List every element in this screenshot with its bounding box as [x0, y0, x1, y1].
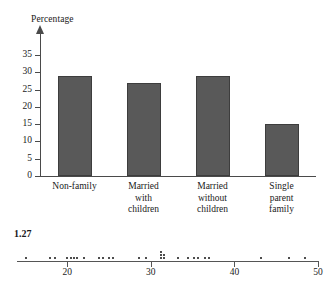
dot-plot-dot — [73, 257, 75, 259]
y-axis-tick-label: 0 — [27, 170, 32, 181]
y-axis-tick: 10 — [35, 141, 40, 142]
category-label-line: Married — [178, 181, 247, 193]
category-label-line: Non-family — [40, 181, 109, 193]
dot-plot-dot — [138, 257, 140, 259]
bar-chart-plot-area: 05101520253035 Non-familyMarriedwithchil… — [0, 0, 327, 218]
y-axis-tick-label: 25 — [23, 84, 33, 95]
y-axis-arrow-icon — [36, 25, 44, 34]
y-axis-tick-label: 15 — [23, 118, 33, 129]
dot-plot-dot — [304, 257, 306, 259]
x-axis-tick-label: 50 — [313, 267, 323, 278]
dot-plot-dot — [160, 254, 162, 256]
y-axis-tick: 15 — [35, 124, 40, 125]
y-axis-tick: 0 — [35, 176, 40, 177]
dot-plot-dot — [66, 257, 68, 259]
dot-plot-dot — [288, 257, 290, 259]
category-label-line: children — [109, 204, 178, 216]
y-axis-tick-mark — [35, 107, 40, 108]
y-axis-tick-mark — [35, 55, 40, 56]
dot-plot-dot — [204, 257, 206, 259]
category-label-line: with — [109, 193, 178, 205]
x-axis-tick-label: 40 — [230, 267, 240, 278]
y-axis-line — [40, 33, 41, 176]
dot-plot-dot — [112, 257, 114, 259]
dot-plot-dot — [160, 251, 162, 253]
y-axis-tick-mark — [35, 90, 40, 91]
y-axis-tick-mark — [35, 159, 40, 160]
y-axis-tick: 30 — [35, 72, 40, 73]
dot-plot-dot — [102, 257, 104, 259]
y-axis-tick-mark — [35, 72, 40, 73]
y-axis-tick: 20 — [35, 107, 40, 108]
dot-plot-dot — [197, 257, 199, 259]
y-axis-tick-mark — [35, 141, 40, 142]
dot-plot-axis-line — [17, 261, 318, 262]
dot-plot-dot — [76, 257, 78, 259]
exercise-number-label: 1.27 — [14, 228, 32, 239]
y-axis-tick-label: 35 — [23, 49, 33, 60]
x-axis-category-label: Singleparentfamily — [247, 181, 316, 216]
category-label-line: without — [178, 193, 247, 205]
category-label-line: Married — [109, 181, 178, 193]
dot-plot-dot — [177, 257, 179, 259]
category-label-line: Single — [247, 181, 316, 193]
dot-plot-dot — [160, 257, 162, 259]
y-axis-tick-mark — [35, 176, 40, 177]
dot-plot-dot — [145, 257, 147, 259]
dot-plot-dot — [193, 257, 195, 259]
y-axis-tick-mark — [35, 124, 40, 125]
x-axis-category-label: Marriedwithchildren — [109, 181, 178, 216]
category-label-line: family — [247, 204, 316, 216]
y-axis-tick-label: 5 — [27, 153, 32, 164]
dot-plot-dot — [163, 257, 165, 259]
dot-plot-dot — [83, 257, 85, 259]
x-axis-category-label: Non-family — [40, 181, 109, 193]
dot-plot-dot — [49, 257, 51, 259]
y-axis-tick: 5 — [35, 159, 40, 160]
dot-plot-dot — [54, 257, 56, 259]
bar — [196, 76, 230, 176]
bar-chart-figure: Percentage 05101520253035 Non-familyMarr… — [0, 0, 327, 218]
dot-plot-dot — [70, 257, 72, 259]
dot-plot-dot — [163, 254, 165, 256]
dot-plot-dot — [98, 257, 100, 259]
y-axis-tick-label: 20 — [23, 101, 33, 112]
x-axis-tick-label: 20 — [62, 267, 72, 278]
dot-plot-figure: 1.27 20304050 — [0, 218, 327, 282]
bar — [265, 124, 299, 176]
y-axis-tick: 25 — [35, 90, 40, 91]
category-label-line: parent — [247, 193, 316, 205]
y-axis-tick-label: 10 — [23, 135, 33, 146]
dot-plot-dot — [208, 257, 210, 259]
bar — [127, 83, 161, 176]
x-axis-line — [40, 176, 316, 177]
y-axis-tick-label: 30 — [23, 66, 33, 77]
dot-plot-dot — [25, 257, 27, 259]
category-label-line: children — [178, 204, 247, 216]
dot-plot-dot — [260, 257, 262, 259]
x-axis-category-label: Marriedwithoutchildren — [178, 181, 247, 216]
dot-plot-dot — [187, 257, 189, 259]
bar — [58, 76, 92, 176]
dot-plot-dot — [108, 257, 110, 259]
x-axis-tick-label: 30 — [146, 267, 156, 278]
y-axis-tick: 35 — [35, 55, 40, 56]
